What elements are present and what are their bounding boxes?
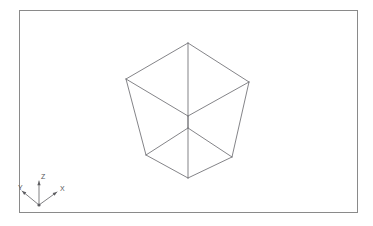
- axis-origin-marker: [37, 203, 40, 206]
- axis-label-x: X: [60, 185, 65, 192]
- cad-viewport[interactable]: ZXY: [0, 0, 373, 226]
- axis-label-y: Y: [18, 184, 23, 191]
- axis-label-z: Z: [41, 173, 46, 180]
- viewport-canvas[interactable]: ZXY: [0, 0, 373, 226]
- viewport-frame: [20, 11, 358, 213]
